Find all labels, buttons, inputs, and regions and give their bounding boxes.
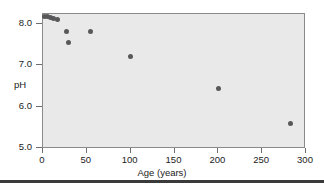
plot-frame [42,13,305,148]
x-axis-tick-label: 250 [241,155,281,165]
y-axis-tick-label: 7.0 [0,59,32,69]
x-axis-label: Age (years) [0,168,324,178]
x-axis-tick [130,148,131,153]
x-axis-tick-label: 100 [110,155,150,165]
data-point [64,29,69,34]
x-axis-tick-label: 0 [22,155,62,165]
x-axis-tick [261,148,262,153]
y-axis-tick-label: 8.0 [0,18,32,28]
data-point [55,17,60,22]
data-point [216,86,221,91]
y-axis-tick-label: 6.0 [0,101,32,111]
bottom-divider [0,180,324,183]
chart-page: 5.06.07.08.0 pH 050100150200250300 Age (… [0,0,324,184]
data-point [88,29,93,34]
x-axis-tick [217,148,218,153]
x-axis-tick [305,148,306,153]
data-point [66,40,71,45]
y-axis-label: pH [14,80,26,90]
x-axis-tick-label: 300 [285,155,324,165]
x-axis-tick [42,148,43,153]
plot-area [43,14,304,147]
x-axis-tick [174,148,175,153]
y-axis-tick-label: 5.0 [0,142,32,152]
x-axis-tick-label: 50 [66,155,106,165]
x-axis-tick-label: 200 [197,155,237,165]
data-point [128,54,133,59]
data-point [288,121,293,126]
x-axis-tick-label: 150 [154,155,194,165]
x-axis-tick [86,148,87,153]
